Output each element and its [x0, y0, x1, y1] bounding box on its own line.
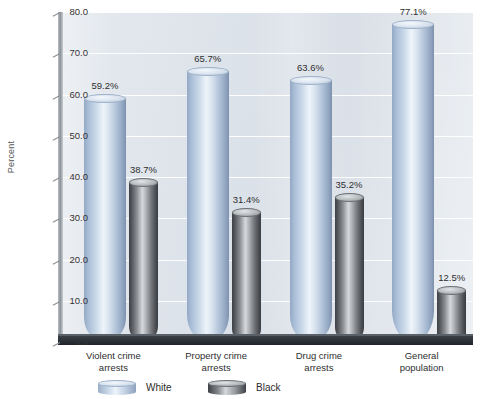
legend-swatch-black-icon — [208, 380, 246, 395]
y-tick-label: 30.0 — [50, 212, 88, 223]
x-axis-label: Drug crime arrests — [262, 350, 377, 373]
bar-white — [84, 98, 126, 342]
legend: White Black — [0, 377, 486, 399]
bar-white — [187, 71, 229, 342]
bar-white — [290, 80, 332, 342]
legend-label-black: Black — [256, 382, 280, 393]
data-label-black: 38.7% — [117, 164, 170, 175]
data-label-black: 31.4% — [220, 194, 273, 205]
x-axis-label: Violent crime arrests — [56, 350, 171, 373]
legend-swatch-white-icon — [98, 380, 136, 395]
data-label-white: 65.7% — [179, 53, 237, 64]
legend-label-white: White — [146, 382, 172, 393]
data-label-black: 12.5% — [425, 272, 478, 283]
chart-floor — [58, 336, 473, 345]
x-axis-label: General population — [364, 350, 479, 373]
data-label-white: 77.1% — [384, 6, 442, 17]
bar-black — [129, 182, 158, 342]
data-label-white: 59.2% — [76, 80, 134, 91]
data-label-white: 63.6% — [282, 62, 340, 73]
bar-white — [392, 24, 434, 342]
y-axis-title: Percent — [6, 127, 16, 187]
bar-black — [232, 212, 261, 342]
bar-black — [335, 197, 364, 342]
x-axis-label: Property crime arrests — [159, 350, 274, 373]
data-label-black: 35.2% — [323, 179, 376, 190]
y-tick-label: 70.0 — [50, 47, 88, 58]
bar-chart: Percent 0.010.020.030.040.050.060.070.08… — [0, 0, 486, 399]
plot-area — [62, 12, 473, 342]
